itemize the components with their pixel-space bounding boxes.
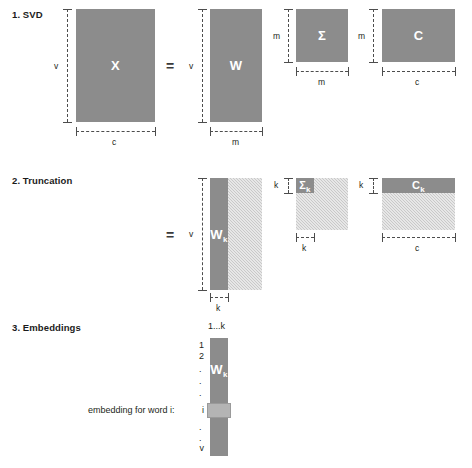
diagram-canvas: 1. SVD X v c = W v m Σ m m C m c 2. Tr xyxy=(0,0,472,468)
row-dot-1: . xyxy=(199,365,202,374)
matrix-sigma-label: Σ xyxy=(318,29,326,42)
dim-cap-wk-cols-right xyxy=(228,293,229,302)
dim-cap-sigma-rows-top xyxy=(284,9,293,10)
dim-rule-wk-cols xyxy=(210,297,228,298)
dim-cap-wk-rows-top xyxy=(198,178,207,179)
dim-rule-sigma-cols xyxy=(296,71,348,72)
dim-label-sigma-rows: m xyxy=(273,32,280,41)
matrix-sigmak: Σk xyxy=(296,178,314,193)
dim-cap-sigmak-cols-left xyxy=(296,233,297,242)
dim-rule-sigmak-cols xyxy=(296,237,314,238)
dim-label-w-rows: v xyxy=(189,62,193,71)
dim-label-sigma-cols: m xyxy=(318,78,325,87)
row-dot-3: . xyxy=(199,389,202,398)
dim-label-ck-rows: k xyxy=(359,181,363,190)
equals-sign-svd: = xyxy=(166,59,174,73)
matrix-x-label: X xyxy=(111,59,120,72)
dim-rule-w-cols xyxy=(210,131,262,132)
dim-cap-w-cols-left xyxy=(210,127,211,136)
dim-label-wk-rows: v xyxy=(189,230,193,239)
dim-cap-ck-cols-left xyxy=(382,233,383,242)
dim-label-w-cols: m xyxy=(232,138,239,147)
matrix-w-label: W xyxy=(230,59,243,72)
dim-cap-sigma-cols-right xyxy=(348,67,349,76)
matrix-ck: Ck xyxy=(382,178,455,193)
dim-cap-c-rows-bottom xyxy=(369,62,378,63)
dim-cap-ck-rows-top xyxy=(369,178,378,179)
dim-rule-sigmak-rows xyxy=(288,178,289,193)
matrix-c: C xyxy=(382,9,455,62)
row-label-2: 2 xyxy=(190,352,204,361)
dim-label-x-rows: v xyxy=(54,62,58,71)
row-dot-5: . xyxy=(199,434,202,443)
embedding-row-highlight[interactable] xyxy=(207,403,231,418)
embeddings-column-header: 1...k xyxy=(208,322,225,331)
dim-label-wk-cols: k xyxy=(216,304,220,313)
dim-cap-sigma-rows-bottom xyxy=(284,62,293,63)
dim-cap-wk-cols-left xyxy=(210,293,211,302)
equals-sign-truncation: = xyxy=(166,228,174,242)
dim-label-c-rows: m xyxy=(358,32,365,41)
row-label-i: i xyxy=(190,406,204,415)
dim-cap-ck-cols-right xyxy=(455,233,456,242)
dim-rule-x-rows xyxy=(67,9,68,122)
dim-cap-ck-rows-bottom xyxy=(369,193,378,194)
section-heading-svd: 1. SVD xyxy=(12,9,43,20)
row-dot-2: . xyxy=(199,377,202,386)
matrix-wk-truncated-region xyxy=(228,178,262,290)
dim-rule-w-rows xyxy=(202,9,203,122)
matrix-wk-label: Wk xyxy=(210,228,227,241)
dim-rule-ck-cols xyxy=(382,237,455,238)
matrix-wk: Wk xyxy=(210,178,228,290)
matrix-sigmak-label: Σk xyxy=(299,180,311,191)
matrix-w: W xyxy=(210,9,262,122)
matrix-wk-embeddings-label: Wk xyxy=(210,363,227,376)
dim-cap-x-cols-left xyxy=(76,127,77,136)
dim-rule-sigma-rows xyxy=(288,9,289,62)
matrix-c-label: C xyxy=(414,29,424,42)
embedding-caption: embedding for word i: xyxy=(88,406,175,415)
dim-cap-c-cols-right xyxy=(455,67,456,76)
matrix-wk-embeddings: Wk xyxy=(210,338,228,456)
dim-cap-w-rows-bottom xyxy=(198,122,207,123)
row-label-v: v xyxy=(190,444,204,453)
matrix-x: X xyxy=(76,9,155,122)
dim-cap-sigma-cols-left xyxy=(296,67,297,76)
section-heading-truncation: 2. Truncation xyxy=(12,175,72,186)
dim-cap-x-rows-bottom xyxy=(63,122,72,123)
dim-cap-sigmak-rows-bottom xyxy=(284,193,293,194)
dim-cap-x-cols-right xyxy=(155,127,156,136)
dim-label-x-cols: c xyxy=(112,138,116,147)
dim-rule-c-cols xyxy=(382,71,455,72)
dim-label-sigmak-rows: k xyxy=(274,181,278,190)
dim-cap-c-cols-left xyxy=(382,67,383,76)
section-heading-embeddings: 3. Embeddings xyxy=(12,322,81,333)
dim-label-sigmak-cols: k xyxy=(302,244,306,253)
row-dot-4: . xyxy=(199,423,202,432)
dim-rule-x-cols xyxy=(76,131,155,132)
dim-rule-ck-rows xyxy=(373,178,374,193)
dim-label-c-cols: c xyxy=(415,78,419,87)
dim-cap-c-rows-top xyxy=(369,9,378,10)
dim-rule-c-rows xyxy=(373,9,374,62)
dim-cap-x-rows-top xyxy=(63,9,72,10)
dim-label-ck-cols: c xyxy=(415,244,419,253)
dim-cap-w-rows-top xyxy=(198,9,207,10)
row-label-1: 1 xyxy=(190,341,204,350)
dim-cap-sigmak-cols-right xyxy=(314,233,315,242)
dim-cap-w-cols-right xyxy=(262,127,263,136)
matrix-sigma: Σ xyxy=(296,9,348,62)
matrix-ck-label: Ck xyxy=(412,180,425,191)
dim-rule-wk-rows xyxy=(202,178,203,290)
dim-cap-wk-rows-bottom xyxy=(198,290,207,291)
dim-cap-sigmak-rows-top xyxy=(284,178,293,179)
